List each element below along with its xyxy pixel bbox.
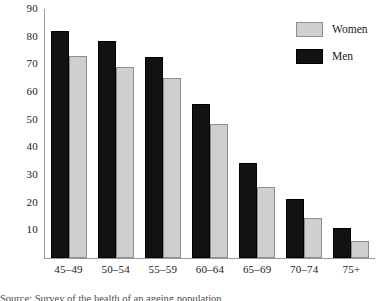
- bar-men: [192, 104, 210, 258]
- chart-legend: WomenMen: [296, 20, 382, 74]
- x-axis-tick-labels: 45–4950–5455–5960–6465–6970–7475+: [45, 263, 375, 281]
- bar-group: [139, 9, 186, 258]
- legend-label: Men: [332, 50, 353, 62]
- y-axis-tick-label: 70: [27, 58, 38, 69]
- x-axis-tick-label: 65–69: [234, 263, 281, 276]
- x-axis-tick-label: 60–64: [186, 263, 233, 276]
- x-axis-line: [44, 258, 375, 259]
- x-axis-tick-label: 45–49: [45, 263, 92, 276]
- y-axis-tick-labels: 102030405060708090: [4, 9, 38, 259]
- y-axis-tick-label: 40: [27, 141, 38, 152]
- bar-men: [286, 199, 304, 258]
- bar-women: [163, 78, 181, 258]
- bar-group: [186, 9, 233, 258]
- x-axis-tick-label: 75+: [328, 263, 375, 276]
- figure-caption: Source: Survey of the health of an agein…: [0, 292, 385, 301]
- y-axis-tick-label: 80: [27, 31, 38, 42]
- x-axis-tick-label: 70–74: [281, 263, 328, 276]
- bar-women: [69, 56, 87, 258]
- y-axis-tick-label: 10: [27, 224, 38, 235]
- bar-men: [51, 31, 69, 258]
- bar-chart-figure: 102030405060708090 45–4950–5455–5960–646…: [0, 0, 385, 301]
- legend-swatch-women: [296, 22, 323, 37]
- legend-swatch-men: [296, 49, 323, 64]
- bar-men: [145, 57, 163, 258]
- bar-men: [333, 228, 351, 258]
- y-axis-tick-label: 60: [27, 86, 38, 97]
- y-axis-tick-label: 20: [27, 197, 38, 208]
- x-axis-tick-label: 55–59: [139, 263, 186, 276]
- legend-label: Women: [332, 23, 367, 35]
- bar-group: [45, 9, 92, 258]
- bar-women: [116, 67, 134, 258]
- bar-group: [234, 9, 281, 258]
- bar-women: [304, 218, 322, 258]
- bar-women: [351, 241, 369, 258]
- y-axis-tick-label: 50: [27, 114, 38, 125]
- legend-item: Men: [296, 47, 382, 65]
- y-axis-tick-label: 30: [27, 169, 38, 180]
- bar-men: [98, 41, 116, 258]
- bar-women: [210, 124, 228, 258]
- y-axis-tick-label: 90: [27, 3, 38, 14]
- bar-men: [239, 163, 257, 258]
- legend-item: Women: [296, 20, 382, 38]
- bar-group: [92, 9, 139, 258]
- x-axis-tick-label: 50–54: [92, 263, 139, 276]
- bar-women: [257, 187, 275, 258]
